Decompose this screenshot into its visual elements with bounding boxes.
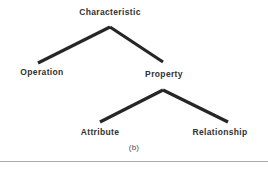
edge-property-to-attribute bbox=[100, 90, 163, 122]
tree-node-attribute: Attribute bbox=[81, 128, 120, 137]
bottom-divider bbox=[0, 161, 268, 162]
tree-node-relationship: Relationship bbox=[192, 128, 247, 137]
tree-node-operation: Operation bbox=[20, 68, 63, 77]
tree-node-property: Property bbox=[145, 70, 183, 79]
edge-characteristic-to-property bbox=[110, 27, 163, 62]
edge-property-to-relationship bbox=[163, 90, 228, 122]
figure-container: Characteristic Operation Property Attrib… bbox=[0, 0, 268, 174]
figure-caption: (b) bbox=[0, 143, 268, 152]
edge-characteristic-to-operation bbox=[38, 27, 110, 63]
tree-node-characteristic: Characteristic bbox=[79, 8, 141, 17]
